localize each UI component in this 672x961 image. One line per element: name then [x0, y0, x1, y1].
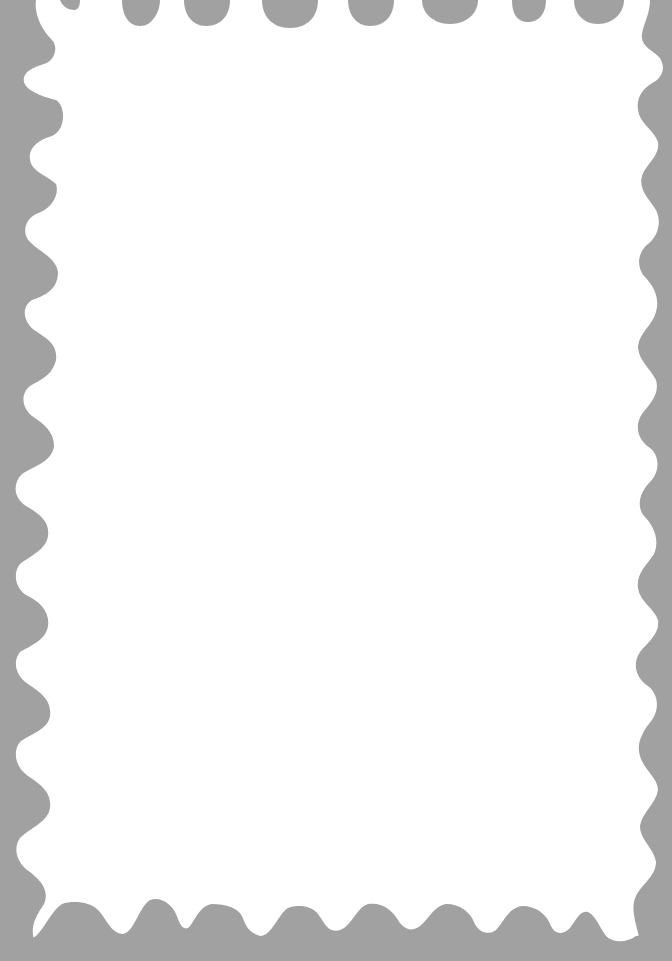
bottom-wavy-border: [0, 899, 672, 961]
top-perforation-blobs: [60, 0, 624, 28]
stamp-border-graphic: [0, 0, 672, 961]
stamp-frame: [0, 0, 672, 961]
left-wavy-border: [0, 0, 63, 961]
right-wavy-border: [633, 0, 672, 961]
